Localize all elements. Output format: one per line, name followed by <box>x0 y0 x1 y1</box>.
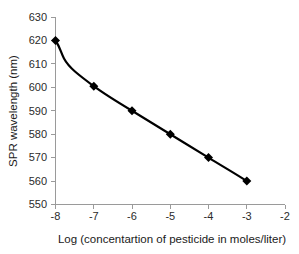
x-tick-label: -7 <box>89 210 99 222</box>
y-tick-label: 610 <box>29 58 47 70</box>
y-tick-label: 620 <box>29 34 47 46</box>
y-tick-label: 580 <box>29 128 47 140</box>
y-tick-label: 570 <box>29 151 47 163</box>
x-tick-label: -3 <box>242 210 252 222</box>
spr-wavelength-line-chart: 550 560 570 580 590 600 610 620 630 -8 -… <box>0 0 299 254</box>
x-tick-label: -2 <box>280 210 290 222</box>
x-tick-label: -8 <box>51 210 61 222</box>
y-tick-label: 550 <box>29 198 47 210</box>
x-tick-label: -5 <box>165 210 175 222</box>
x-axis-title: Log (concentartion of pesticide in moles… <box>58 233 286 245</box>
y-tick-label: 600 <box>29 81 47 93</box>
x-tick-label: -6 <box>127 210 137 222</box>
x-tick-label: -4 <box>204 210 214 222</box>
y-axis-title: SPR wavelength (nm) <box>7 55 19 167</box>
chart-figure: 550 560 570 580 590 600 610 620 630 -8 -… <box>0 0 299 254</box>
y-tick-label: 560 <box>29 175 47 187</box>
y-tick-label: 590 <box>29 105 47 117</box>
y-axis-tick-labels: 550 560 570 580 590 600 610 620 630 <box>29 11 47 210</box>
y-tick-label: 630 <box>29 11 47 23</box>
